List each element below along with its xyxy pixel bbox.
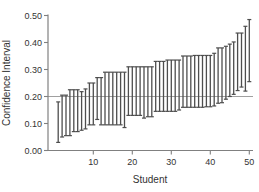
- ci-bar-student-37: [197, 55, 201, 107]
- ci-bar-student-25: [150, 67, 154, 117]
- ci-bar-student-46: [232, 42, 236, 94]
- ci-bar-student-12: [99, 78, 103, 125]
- ci-bar-student-22: [138, 67, 142, 116]
- ci-bar-student-38: [201, 55, 205, 107]
- ci-bar-student-3: [64, 95, 68, 135]
- ci-bar-student-49: [243, 26, 247, 91]
- y-tick-label: 0.30: [24, 65, 42, 75]
- x-axis-title: Student: [133, 174, 168, 185]
- ci-bar-student-20: [130, 67, 134, 116]
- x-tick-label: 50: [244, 157, 254, 167]
- ci-bar-student-14: [107, 72, 111, 125]
- ci-bars: [56, 20, 251, 143]
- ci-bar-student-43: [220, 48, 224, 103]
- ci-chart: 0.000.100.200.300.400.501020304050 Confi…: [0, 0, 259, 192]
- ci-bar-student-33: [181, 56, 185, 107]
- ci-bar-student-28: [162, 61, 166, 111]
- ci-bar-student-50: [247, 20, 251, 82]
- ci-bar-student-27: [158, 61, 162, 111]
- ci-bar-student-47: [236, 33, 240, 91]
- ci-bar-student-11: [95, 78, 99, 120]
- ci-bar-student-40: [208, 55, 212, 106]
- ci-bar-student-36: [193, 55, 197, 107]
- ci-bar-student-26: [154, 61, 158, 111]
- ci-bar-student-9: [87, 83, 91, 125]
- ci-bar-student-17: [119, 72, 123, 125]
- x-tick-label: 10: [88, 157, 98, 167]
- y-tick-label: 0.00: [24, 146, 42, 156]
- ci-bar-student-15: [111, 72, 115, 125]
- ci-bar-student-35: [189, 56, 193, 107]
- ci-bar-student-8: [84, 89, 88, 129]
- ci-bar-student-41: [212, 53, 216, 106]
- ci-bar-student-19: [126, 67, 130, 116]
- y-tick-label: 0.40: [24, 38, 42, 48]
- tick-marks-and-labels: 0.000.100.200.300.400.501020304050: [24, 11, 254, 167]
- ci-bar-student-13: [103, 72, 107, 125]
- x-tick-label: 40: [205, 157, 215, 167]
- x-tick-label: 30: [166, 157, 176, 167]
- ci-bar-student-45: [228, 44, 232, 96]
- ci-bar-student-30: [169, 60, 173, 111]
- ci-bar-student-48: [240, 33, 244, 87]
- x-tick-label: 20: [127, 157, 137, 167]
- ci-bar-student-18: [123, 72, 127, 127]
- y-axis-title: Confidence Interval: [1, 40, 12, 126]
- confidence-interval-figure: 0.000.100.200.300.400.501020304050 Confi…: [0, 0, 259, 192]
- ci-bar-student-23: [142, 67, 146, 118]
- ci-bar-student-1: [56, 102, 60, 142]
- ci-bar-student-29: [165, 60, 169, 111]
- y-tick-label: 0.10: [24, 119, 42, 129]
- ci-bar-student-42: [216, 48, 220, 103]
- ci-bar-student-21: [134, 67, 138, 116]
- ci-bar-student-10: [91, 83, 95, 125]
- ci-bar-student-31: [173, 60, 177, 111]
- ci-bar-student-44: [224, 46, 228, 99]
- y-tick-label: 0.50: [24, 11, 42, 21]
- ci-bar-student-7: [80, 92, 84, 131]
- ci-bar-student-39: [204, 55, 208, 106]
- ci-bar-student-24: [146, 67, 150, 117]
- y-tick-label: 0.20: [24, 92, 42, 102]
- ci-bar-student-34: [185, 56, 189, 107]
- ci-bar-student-2: [60, 95, 64, 137]
- ci-bar-student-16: [115, 72, 119, 125]
- ci-bar-student-32: [177, 60, 181, 110]
